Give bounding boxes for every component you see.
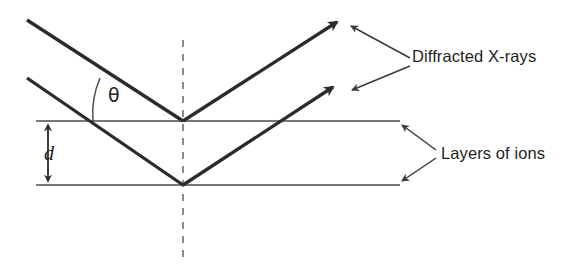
diagram-canvas: Diffracted X-rays Layers of ions d θ bbox=[0, 0, 587, 267]
diffracted-ray-lower bbox=[183, 87, 333, 185]
incident-ray-upper bbox=[27, 20, 183, 121]
arrow-to-diffracted-ray-lower bbox=[352, 66, 410, 90]
arrow-to-diffracted-ray-upper bbox=[351, 26, 410, 58]
theta-angle-label: θ bbox=[108, 86, 120, 105]
diffracted-ray-upper bbox=[183, 22, 337, 121]
incident-ray-lower bbox=[27, 78, 183, 185]
arrow-to-lower-layer-line bbox=[402, 158, 436, 181]
arrow-to-upper-layer-line bbox=[402, 125, 436, 150]
diffracted-xrays-label: Diffracted X-rays bbox=[412, 48, 536, 65]
bragg-diffraction-diagram bbox=[0, 0, 587, 267]
theta-angle-arc bbox=[93, 78, 100, 121]
layers-of-ions-label: Layers of ions bbox=[441, 145, 545, 162]
spacing-d-label: d bbox=[44, 143, 54, 163]
